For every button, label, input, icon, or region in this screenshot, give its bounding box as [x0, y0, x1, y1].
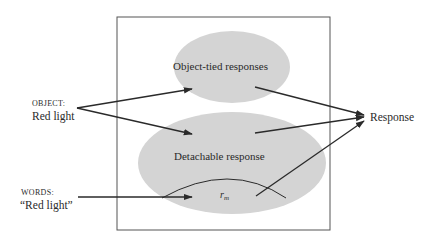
arrow-object-tied-to-response: [255, 87, 364, 115]
rm-subscript: m: [224, 194, 229, 202]
arrow-object-to-detachable: [77, 108, 192, 134]
arrow-object-to-object-tied: [77, 89, 192, 108]
object-heading: OBJECT:: [32, 100, 65, 108]
object-label: Red light: [32, 111, 75, 123]
rm-label: rm: [220, 190, 229, 202]
object-tied-label: Object-tied responses: [173, 61, 268, 72]
words-heading: WORDS:: [21, 189, 54, 197]
words-label: “Red light”: [20, 200, 73, 212]
detachable-label: Detachable response: [174, 151, 265, 162]
response-label: Response: [370, 112, 414, 124]
